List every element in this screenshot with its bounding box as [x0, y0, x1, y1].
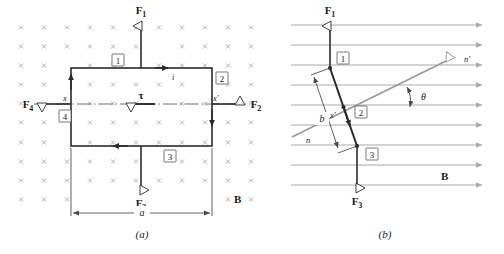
force-f1-b: F1	[325, 4, 336, 68]
b-field-into-page-marks	[19, 26, 253, 202]
b-field-lines-b	[291, 25, 482, 185]
b-field-label-b: B	[441, 170, 449, 182]
force-f2-label-a: F2	[251, 98, 262, 113]
force-f1-a: F1	[136, 4, 147, 68]
caption-a: (a)	[136, 228, 149, 241]
current-label-a: i	[172, 72, 175, 82]
angle-theta-label-b: θ	[421, 91, 426, 102]
side-number-2-b: 2	[355, 106, 367, 118]
side-number-4-a: 4	[59, 110, 71, 122]
force-f2-a: F2	[212, 98, 261, 113]
force-f1-label-b: F1	[325, 4, 336, 19]
side-number-1-a: 1	[112, 54, 124, 66]
force-f4-label-a: F4	[23, 98, 34, 113]
axis-right-label-a: x′	[212, 93, 219, 103]
axis-left-label-a: x	[62, 93, 67, 103]
force-f3-b: F3	[352, 146, 363, 210]
svg-text:1: 1	[341, 54, 346, 64]
force-f3-label-b: F3	[352, 195, 363, 210]
figure-svg: i x x′ τ F1 F3	[0, 0, 504, 254]
dimension-b-label: b	[320, 113, 325, 124]
svg-text:2: 2	[220, 74, 225, 84]
side-number-1-b: 1	[337, 52, 349, 64]
svg-text:3: 3	[168, 152, 173, 162]
svg-text:2: 2	[359, 108, 364, 118]
panel-b: n n′ θ x′ F1	[291, 4, 482, 241]
panel-a: i x x′ τ F1 F3	[19, 4, 261, 241]
caption-b: (b)	[379, 228, 392, 241]
normal-label-b: n	[306, 135, 310, 145]
current-direction-arrows-a	[71, 68, 212, 146]
axis-right-label-b: x′	[329, 110, 336, 120]
torque-label-a: τ	[138, 89, 143, 101]
force-f1-label-a: F1	[136, 4, 147, 19]
svg-text:3: 3	[370, 150, 375, 160]
side-number-3-a: 3	[164, 150, 176, 162]
svg-text:1: 1	[116, 56, 121, 66]
dimension-a-label: a	[140, 207, 145, 218]
side-number-2-a: 2	[216, 72, 228, 84]
normal-axis-b: n n′	[292, 54, 470, 145]
angle-theta-b: θ	[407, 87, 426, 107]
side-number-3-b: 3	[366, 148, 378, 160]
current-loop-rect-a	[71, 68, 212, 146]
svg-text:4: 4	[63, 112, 68, 122]
normal-prime-label-b: n′	[464, 54, 470, 64]
b-field-label-a: B	[234, 193, 242, 205]
physics-figure: i x x′ τ F1 F3	[0, 0, 504, 254]
